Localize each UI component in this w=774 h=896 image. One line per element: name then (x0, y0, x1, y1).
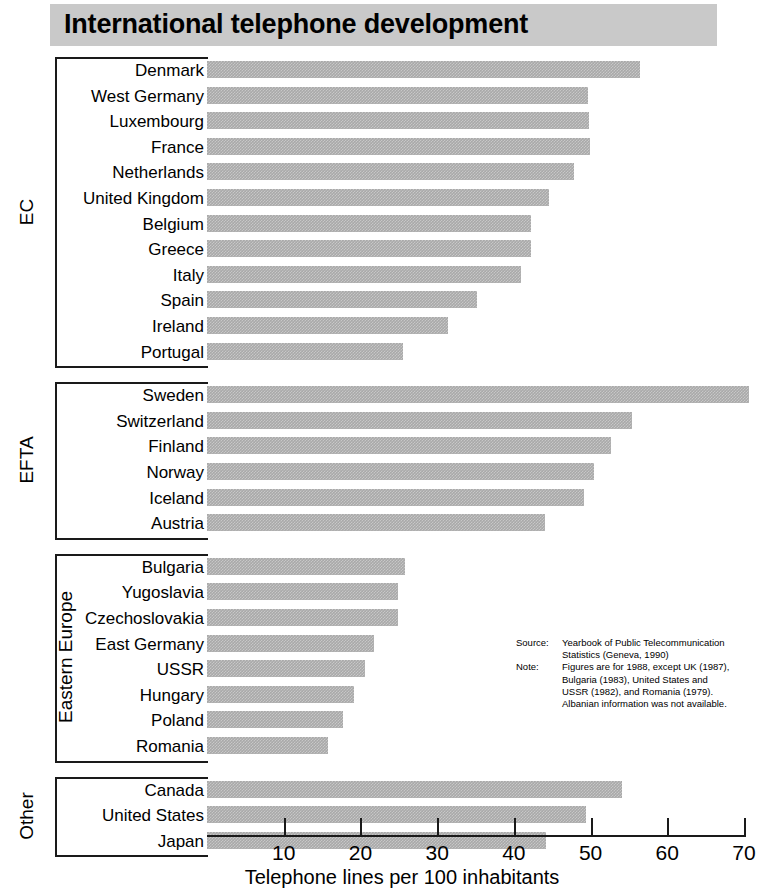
bar (207, 711, 343, 728)
x-axis-line (207, 835, 744, 837)
source-row: Source: Yearbook of Public Telecommunica… (516, 637, 766, 649)
x-axis-tick (514, 818, 516, 837)
note-row: Note: Figures are for 1988, except UK (1… (516, 661, 766, 673)
category-label: Hungary (60, 687, 204, 704)
chart-page: International telephone development ECDe… (0, 0, 774, 896)
chart-row: United Kingdom (0, 188, 774, 214)
bar (207, 660, 365, 677)
bar (207, 343, 403, 360)
chart-row: Spain (0, 290, 774, 316)
x-axis-tick (284, 818, 286, 837)
bar (207, 412, 632, 429)
bar (207, 87, 588, 104)
x-axis-tick (591, 818, 593, 837)
category-label: Belgium (60, 216, 204, 233)
chart-row: Bulgaria (0, 557, 774, 583)
category-label: Netherlands (60, 164, 204, 181)
bar (207, 437, 611, 454)
chart-row: Italy (0, 265, 774, 291)
note-text-line-1: Figures are for 1988, except UK (1987), (562, 661, 766, 673)
x-axis-tick-label: 30 (407, 841, 467, 865)
chart-row: Norway (0, 462, 774, 488)
bar (207, 163, 574, 180)
chart-row: Yugoslavia (0, 582, 774, 608)
bar (207, 61, 640, 78)
chart-row: Iceland (0, 488, 774, 514)
chart-row: Portugal (0, 342, 774, 368)
category-label: Iceland (60, 490, 204, 507)
chart-plot-area: ECDenmarkWest GermanyLuxembourgFranceNet… (0, 0, 774, 896)
category-label: Switzerland (60, 413, 204, 430)
category-label: USSR (60, 661, 204, 678)
bar (207, 806, 586, 823)
bar (207, 189, 549, 206)
bar (207, 463, 594, 480)
x-axis-tick (744, 818, 746, 837)
bar (207, 781, 622, 798)
category-label: Canada (60, 782, 204, 799)
category-label: Denmark (60, 62, 204, 79)
x-axis-tick (360, 818, 362, 837)
category-label: Sweden (60, 387, 204, 404)
category-label: Finland (60, 438, 204, 455)
bar (207, 138, 590, 155)
category-label: Norway (60, 464, 204, 481)
category-label: Poland (60, 712, 204, 729)
category-label: Luxembourg (60, 113, 204, 130)
note-text-line-4: Albanian information was not available. (562, 698, 766, 710)
category-label: Portugal (60, 344, 204, 361)
category-label: United States (60, 807, 204, 824)
category-label: Italy (60, 267, 204, 284)
chart-row: France (0, 137, 774, 163)
category-label: United Kingdom (60, 190, 204, 207)
x-axis-tick-label: 20 (330, 841, 390, 865)
x-axis-tick-label: 60 (637, 841, 697, 865)
note-text-line-3: USSR (1982), and Romania (1979). (562, 686, 766, 698)
chart-row: Ireland (0, 316, 774, 342)
bar (207, 558, 405, 575)
category-label: Yugoslavia (60, 584, 204, 601)
source-text-line-2: Statistics (Geneva, 1990) (562, 649, 766, 661)
x-axis-tick (437, 818, 439, 837)
bar (207, 112, 589, 129)
category-label: Romania (60, 738, 204, 755)
category-label: West Germany (60, 88, 204, 105)
bar (207, 386, 749, 403)
chart-row: Finland (0, 436, 774, 462)
chart-row: Greece (0, 239, 774, 265)
bar (207, 317, 448, 334)
source-text-line-1: Yearbook of Public Telecommunication (562, 637, 766, 649)
category-label: Greece (60, 241, 204, 258)
x-axis-tick-label: 10 (254, 841, 314, 865)
note-label: Note: (516, 661, 562, 673)
chart-row: Canada (0, 780, 774, 806)
chart-row: Denmark (0, 60, 774, 86)
source-label: Source: (516, 637, 562, 649)
chart-row: Luxembourg (0, 111, 774, 137)
chart-row: Switzerland (0, 411, 774, 437)
bar (207, 609, 398, 626)
x-axis-tick-label: 50 (561, 841, 621, 865)
chart-row: United States (0, 805, 774, 831)
bar (207, 215, 531, 232)
category-label: Bulgaria (60, 559, 204, 576)
chart-row: Czechoslovakia (0, 608, 774, 634)
x-axis-tick-label: 70 (714, 841, 774, 865)
x-axis-title: Telephone lines per 100 inhabitants (245, 866, 560, 889)
bar (207, 583, 398, 600)
chart-row: Poland (0, 710, 774, 736)
source-note-block: Source: Yearbook of Public Telecommunica… (516, 637, 766, 710)
category-label: Japan (60, 833, 204, 850)
category-label: Spain (60, 292, 204, 309)
chart-row: Austria (0, 513, 774, 539)
chart-row: Romania (0, 736, 774, 762)
note-text-line-2: Bulgaria (1983), United States and (562, 674, 766, 686)
category-label: Ireland (60, 318, 204, 335)
chart-row: Sweden (0, 385, 774, 411)
category-label: Austria (60, 515, 204, 532)
chart-row: Belgium (0, 214, 774, 240)
category-label: East Germany (60, 636, 204, 653)
chart-row: Netherlands (0, 162, 774, 188)
x-axis-title-wrap: Telephone lines per 100 inhabitants (0, 866, 774, 889)
chart-row: West Germany (0, 86, 774, 112)
